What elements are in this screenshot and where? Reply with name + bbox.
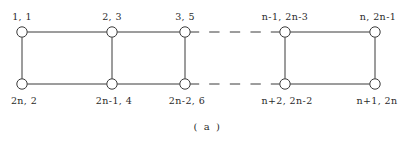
vertex-label-t2: 2, 3 [102,12,122,22]
vertex-node-b3 [180,79,190,89]
vertex-label-b4: n+2, 2n-2 [261,96,312,106]
figure-container: 1, 12, 33, 5n-1, 2n-3n, 2n-12n, 22n-1, 4… [0,0,415,143]
vertex-node-b2 [107,79,117,89]
vertex-label-b5: n+1, 2n [356,96,397,106]
vertex-label-t3: 3, 5 [175,12,195,22]
vertex-node-t5 [370,27,380,37]
vertex-label-t4: n-1, 2n-3 [262,12,308,22]
vertex-node-t1 [17,27,27,37]
vertex-label-b2: 2n-1, 4 [96,96,132,106]
vertex-label-t1: 1, 1 [12,12,32,22]
vertex-node-b5 [370,79,380,89]
figure-caption: ( a ) [0,122,415,132]
vertex-node-t3 [180,27,190,37]
vertex-label-t5: n, 2n-1 [360,12,396,22]
node-layer [17,27,380,89]
vertex-node-t2 [107,27,117,37]
edge-layer [22,32,375,84]
vertex-node-b4 [280,79,290,89]
vertex-label-b1: 2n, 2 [11,96,37,106]
vertex-node-t4 [280,27,290,37]
vertex-label-b3: 2n-2, 6 [169,96,205,106]
vertex-node-b1 [17,79,27,89]
